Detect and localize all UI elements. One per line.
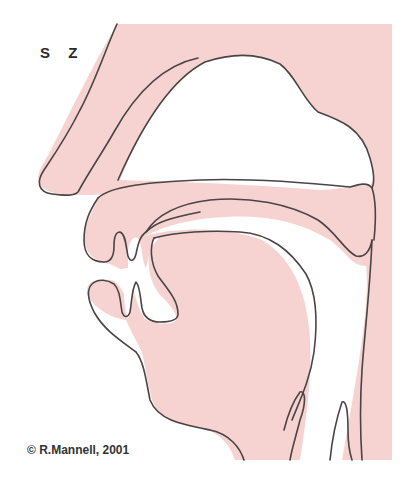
- phoneme-label-z: Z: [68, 44, 77, 61]
- vocal-tract-svg: [0, 0, 411, 484]
- copyright-notice: © R.Mannell, 2001: [27, 443, 129, 457]
- phoneme-label-s: S: [40, 44, 50, 61]
- vocal-tract-diagram: S Z © R.Mannell, 2001: [0, 0, 411, 484]
- phoneme-labels: S Z: [40, 44, 77, 61]
